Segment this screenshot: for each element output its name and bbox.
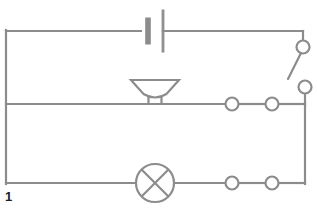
battery-negative-plate bbox=[146, 18, 151, 44]
figure-number-label: 1 bbox=[5, 190, 12, 203]
terminal-node-middle-left[interactable] bbox=[226, 98, 239, 111]
lamp-symbol bbox=[136, 164, 174, 202]
switch-symbol[interactable] bbox=[288, 41, 312, 94]
switch-lower-terminal[interactable] bbox=[299, 81, 312, 94]
battery-symbol bbox=[146, 10, 164, 52]
bell-symbol bbox=[131, 80, 179, 104]
circuit-schematic bbox=[0, 0, 317, 211]
circuit-diagram-canvas: 1 bbox=[0, 0, 317, 211]
wire-group bbox=[6, 30, 305, 184]
switch-lever[interactable] bbox=[288, 53, 301, 79]
bell-dome bbox=[131, 80, 179, 98]
terminal-node-bottom-left[interactable] bbox=[226, 177, 239, 190]
terminal-node-group bbox=[226, 98, 279, 190]
battery-positive-plate bbox=[162, 10, 164, 52]
terminal-node-bottom-right[interactable] bbox=[266, 177, 279, 190]
switch-upper-terminal[interactable] bbox=[297, 41, 310, 54]
terminal-node-middle-right[interactable] bbox=[266, 98, 279, 111]
